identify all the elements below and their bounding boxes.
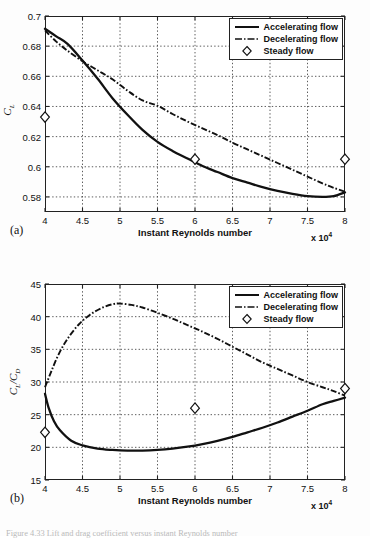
plot-area-b: CL/CD Instant Reynolds number x 104 Acce… (45, 284, 345, 480)
x-tick-label: 5 (117, 483, 122, 494)
y-tick-label: 0.66 (23, 71, 42, 82)
legend-label-accelerating: Accelerating flow (261, 22, 338, 32)
y-tick-label: 0.7 (28, 11, 41, 22)
y-tick-label: 15 (30, 475, 41, 486)
y-tick-label: 20 (30, 442, 41, 453)
x-axis-title-a: Instant Reynolds number (138, 227, 252, 238)
solid-line-icon (233, 289, 261, 301)
legend-label-steady: Steady flow (261, 46, 313, 56)
x-tick-label: 7.5 (301, 215, 314, 226)
legend-item-decelerating: Decelerating flow (233, 33, 338, 45)
dashdot-line-icon (233, 301, 261, 313)
legend-item-accelerating: Accelerating flow (233, 289, 338, 301)
panel-a: (a) CL Instant Reynolds number x 104 Acc… (0, 2, 370, 264)
diamond-marker-icon (233, 313, 261, 325)
x-tick-label: 7 (267, 483, 272, 494)
y-tick-label: 0.6 (28, 161, 41, 172)
x-tick-label: 7 (267, 215, 272, 226)
plot-area-a: CL Instant Reynolds number x 104 Acceler… (45, 16, 345, 212)
legend-label-accelerating: Accelerating flow (261, 290, 338, 300)
y-tick-label: 25 (30, 409, 41, 420)
figure-caption: Figure 4.33 Lift and drag coefficient ve… (6, 529, 364, 538)
x-tick-label: 8 (342, 215, 347, 226)
x-tick-label: 6 (192, 483, 197, 494)
x-axis-title-b: Instant Reynolds number (138, 495, 252, 506)
legend-label-decelerating: Decelerating flow (261, 34, 338, 44)
x-tick-label: 5 (117, 215, 122, 226)
y-axis-title-a: CL (1, 104, 16, 115)
panel-b-label: (b) (10, 491, 24, 506)
y-axis-title-b: CL/CD (7, 369, 22, 396)
solid-line-icon (233, 21, 261, 33)
x-tick-label: 4 (42, 215, 47, 226)
legend-a: Accelerating flow Decelerating flow Stea… (229, 18, 343, 60)
x-tick-label: 6.5 (226, 215, 239, 226)
dashdot-line-icon (233, 33, 261, 45)
y-tick-label: 0.58 (23, 191, 42, 202)
y-tick-label: 0.62 (23, 131, 42, 142)
x-tick-label: 6 (192, 215, 197, 226)
legend-item-steady: Steady flow (233, 45, 338, 57)
y-tick-label: 0.64 (23, 101, 42, 112)
legend-item-steady: Steady flow (233, 313, 338, 325)
y-tick-label: 0.68 (23, 41, 42, 52)
panel-b: (b) CL/CD Instant Reynolds number x 104 … (0, 266, 370, 528)
x-tick-label: 5.5 (151, 215, 164, 226)
x-tick-label: 5.5 (151, 483, 164, 494)
diamond-marker-icon (233, 45, 261, 57)
x-tick-label: 4.5 (76, 483, 89, 494)
x-tick-label: 6.5 (226, 483, 239, 494)
legend-item-accelerating: Accelerating flow (233, 21, 338, 33)
x-tick-label: 4.5 (76, 215, 89, 226)
legend-label-decelerating: Decelerating flow (261, 302, 338, 312)
legend-label-steady: Steady flow (261, 314, 313, 324)
x-tick-label: 4 (42, 483, 47, 494)
x-axis-multiplier-b: x 104 (311, 499, 332, 511)
x-tick-label: 7.5 (301, 483, 314, 494)
legend-item-decelerating: Decelerating flow (233, 301, 338, 313)
y-tick-label: 35 (30, 344, 41, 355)
y-tick-label: 30 (30, 377, 41, 388)
y-tick-label: 45 (30, 279, 41, 290)
y-tick-label: 40 (30, 311, 41, 322)
x-axis-multiplier-a: x 104 (311, 231, 332, 243)
x-tick-label: 8 (342, 483, 347, 494)
panel-a-label: (a) (10, 223, 23, 238)
legend-b: Accelerating flow Decelerating flow Stea… (229, 286, 343, 328)
